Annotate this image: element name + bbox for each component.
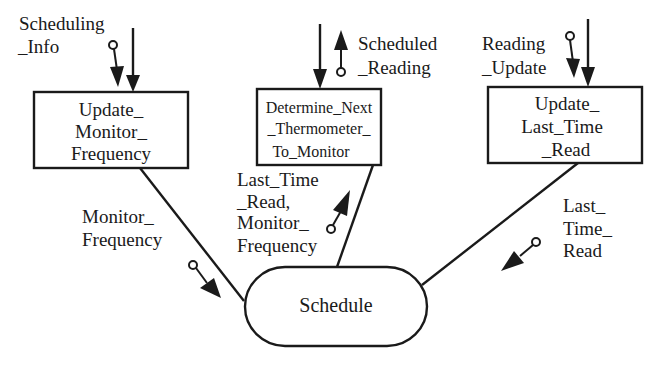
data-couple-reading-update: Reading _Update: [481, 32, 580, 78]
data-label: _Reading: [357, 57, 431, 78]
module-label-line: _Thermometer_: [266, 120, 371, 137]
data-label: Last_: [563, 195, 606, 216]
module-label-line: Update_: [535, 93, 600, 114]
module-label-line: Determine_Next: [266, 99, 373, 116]
data-label: Time_: [563, 218, 612, 239]
arrow-down-right-icon: [200, 278, 221, 298]
module-label-line: Frequency: [71, 143, 152, 164]
data-label: _Update: [481, 57, 546, 78]
data-label: Last_Time: [237, 169, 319, 190]
arrow-up-right-icon: [333, 190, 350, 216]
data-label: Scheduling: [19, 13, 105, 34]
data-label: _Read,: [236, 191, 290, 212]
arrow-down-icon: [566, 58, 580, 78]
module-label-line: Update_: [79, 99, 144, 120]
module-update-last-time-read[interactable]: Update_ Last_Time _Read: [488, 87, 642, 163]
connector-dnt-schedule: [337, 165, 373, 267]
call-arrow-dnt: [313, 24, 327, 89]
data-label: _Info: [17, 36, 59, 57]
connector-ultr-schedule: [422, 163, 578, 285]
call-arrow-umf: [126, 28, 140, 92]
data-couple-last-time-read-monitor-frequency: Last_Time _Read, Monitor_ Frequency: [236, 169, 350, 256]
schedule-node[interactable]: Schedule: [245, 267, 427, 346]
data-couple-scheduled-reading: Scheduled _Reading: [334, 30, 438, 78]
data-label: Monitor_: [82, 206, 154, 227]
data-label: Monitor_: [237, 212, 309, 233]
structure-chart: Update_ Monitor_ Frequency Determine_Nex…: [0, 0, 658, 366]
data-label: Frequency: [237, 235, 318, 256]
module-label-line: Monitor_: [75, 121, 147, 142]
module-label-line: To_Monitor: [272, 143, 350, 160]
data-couple-monitor-frequency: Monitor_ Frequency: [82, 206, 221, 298]
call-arrow-ultr: [581, 19, 595, 87]
data-label: Scheduled: [358, 33, 438, 54]
data-couple-scheduling-info: Scheduling _Info: [17, 13, 124, 87]
arrow-down-left-icon: [501, 251, 524, 271]
data-label: Frequency: [82, 229, 163, 250]
arrow-down-icon: [110, 66, 124, 87]
data-label: Read: [563, 240, 603, 261]
module-update-monitor-frequency[interactable]: Update_ Monitor_ Frequency: [34, 92, 188, 168]
data-label: Reading: [482, 33, 546, 54]
module-label-line: _Read: [541, 139, 591, 160]
data-couple-last-time-read: Last_ Time_ Read: [501, 195, 612, 271]
schedule-label: Schedule: [299, 294, 372, 316]
module-determine-next-thermometer[interactable]: Determine_Next _Thermometer_ To_Monitor: [257, 89, 381, 165]
arrow-up-icon: [334, 30, 348, 50]
module-label-line: Last_Time: [521, 116, 603, 137]
